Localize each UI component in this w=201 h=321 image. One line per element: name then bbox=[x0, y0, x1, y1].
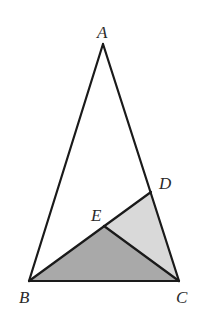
triangle-diagram: A B C D E bbox=[0, 0, 201, 321]
label-b: B bbox=[19, 288, 30, 307]
label-c: C bbox=[176, 288, 188, 307]
label-a: A bbox=[96, 23, 108, 42]
label-d: D bbox=[158, 174, 172, 193]
label-e: E bbox=[90, 206, 102, 225]
